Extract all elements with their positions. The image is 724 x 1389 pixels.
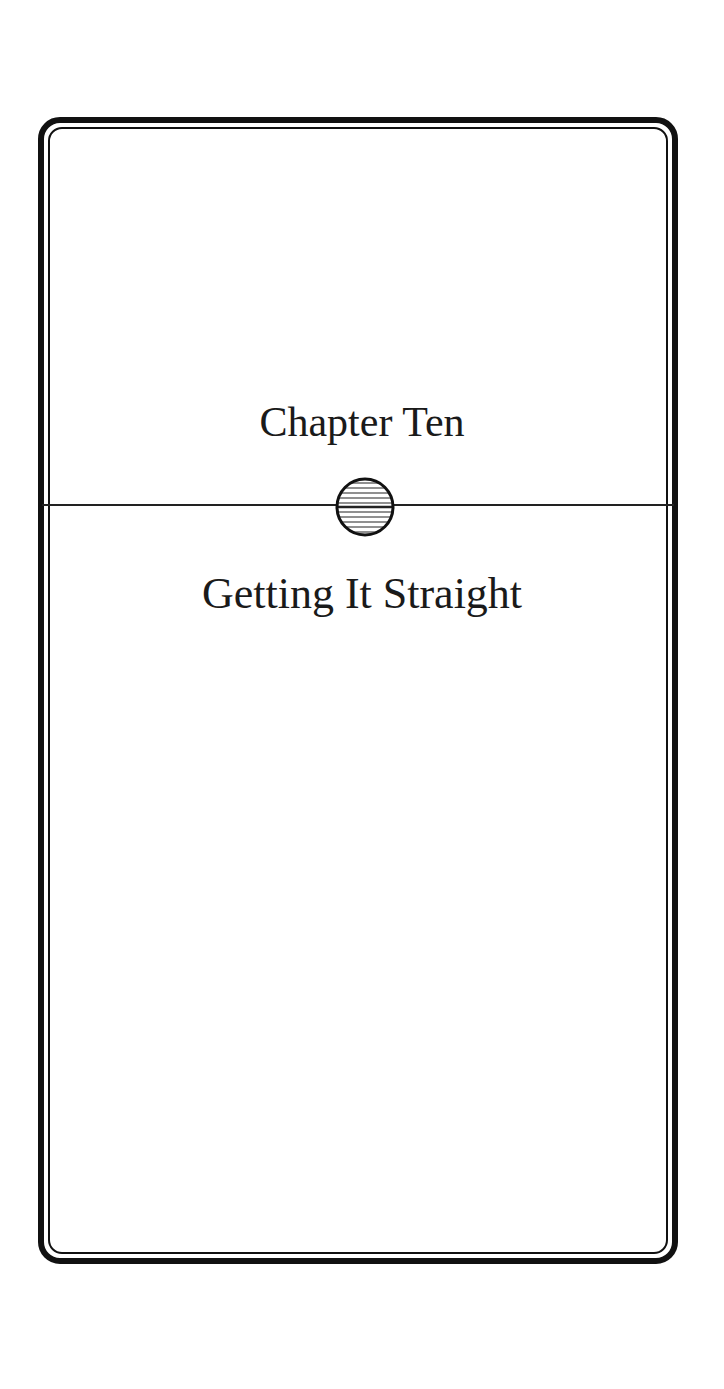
inner-page-border <box>48 127 668 1254</box>
chapter-label: Chapter Ten <box>0 398 724 446</box>
hatched-circle-icon <box>335 477 395 537</box>
chapter-title: Getting It Straight <box>0 568 724 619</box>
